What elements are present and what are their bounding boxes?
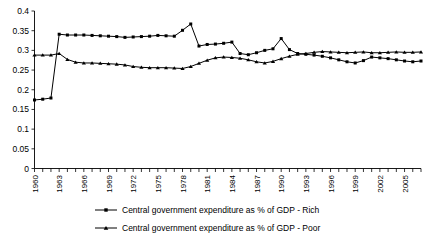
series-rich (33, 22, 423, 101)
data-point-marker (247, 53, 250, 56)
legend-item[interactable]: Central government expenditure as % of G… (95, 205, 320, 215)
data-point-marker (239, 52, 242, 55)
x-tick-label: 1972 (129, 174, 138, 192)
data-point-marker (411, 60, 414, 63)
legend-label: Central government expenditure as % of G… (122, 205, 320, 215)
x-tick-label: 1984 (228, 174, 237, 192)
y-tick-label: 0.3 (17, 45, 29, 55)
y-tick-label: 0.1 (17, 124, 29, 134)
x-tick-label: 1969 (105, 174, 114, 192)
data-point-marker (189, 22, 192, 25)
y-tick-label: 0.4 (17, 6, 29, 16)
data-point-marker (362, 59, 365, 62)
x-tick-label: 1987 (253, 174, 262, 192)
x-tick-label: 1990 (277, 174, 286, 192)
x-tick-label: 1963 (55, 174, 64, 192)
y-tick-label: 0.15 (12, 104, 29, 114)
data-point-marker (148, 35, 151, 38)
legend-item[interactable]: Central government expenditure as % of G… (95, 223, 320, 233)
x-tick-label: 1999 (351, 174, 360, 192)
data-point-marker (140, 35, 143, 38)
data-point-marker (337, 58, 340, 61)
data-point-marker (41, 98, 44, 101)
data-point-marker (370, 56, 373, 59)
data-point-marker (107, 35, 110, 38)
x-axis: 1960196319661969197219751978198119841987… (31, 169, 421, 193)
x-tick-label: 1993 (302, 174, 311, 192)
data-point-marker (420, 60, 423, 63)
data-point-marker (49, 97, 52, 100)
x-tick-label: 1981 (203, 174, 212, 192)
data-point-marker (82, 34, 85, 37)
data-point-marker (321, 55, 324, 58)
x-tick-label: 1960 (31, 174, 40, 192)
x-tick-label: 2002 (376, 174, 385, 192)
data-point-marker (222, 42, 225, 45)
data-point-marker (115, 35, 118, 38)
y-tick-label: 0.35 (12, 26, 29, 36)
data-point-marker (288, 48, 291, 51)
data-point-marker (123, 36, 126, 39)
legend-label: Central government expenditure as % of G… (122, 223, 320, 233)
data-point-marker (132, 35, 135, 38)
data-point-marker (181, 29, 184, 32)
data-point-marker (280, 37, 283, 40)
data-point-marker (66, 34, 69, 37)
x-tick-label: 1975 (154, 174, 163, 192)
data-point-marker (230, 41, 233, 44)
data-point-marker (403, 60, 406, 63)
chart-container: 00.050.10.150.20.250.30.350.4 1960196319… (0, 0, 428, 241)
data-point-marker (214, 43, 217, 46)
data-point-marker (387, 57, 390, 60)
x-tick-label: 2005 (401, 174, 410, 192)
data-point-marker (329, 56, 332, 59)
y-tick-label: 0.25 (12, 65, 29, 75)
y-tick-label: 0.05 (12, 144, 29, 154)
data-point-marker (378, 56, 381, 59)
data-point-marker (354, 61, 357, 64)
x-tick-label: 1966 (80, 174, 89, 192)
x-tick-label: 1996 (327, 174, 336, 192)
data-point-marker (313, 54, 316, 57)
data-point-marker (58, 33, 61, 36)
data-point-marker (99, 34, 102, 37)
legend-square-marker (104, 208, 107, 211)
chart-legend: Central government expenditure as % of G… (95, 205, 320, 233)
data-point-marker (91, 34, 94, 37)
y-axis: 00.050.10.150.20.250.30.350.4 (12, 6, 34, 174)
data-point-marker (173, 35, 176, 38)
data-point-marker (395, 58, 398, 61)
data-point-marker (165, 34, 168, 37)
data-point-marker (206, 43, 209, 46)
data-point-marker (197, 45, 200, 48)
line-chart: 00.050.10.150.20.250.30.350.4 1960196319… (0, 0, 428, 241)
data-point-marker (33, 98, 36, 101)
data-point-marker (345, 60, 348, 63)
data-series-group (32, 22, 423, 101)
data-point-marker (74, 34, 77, 37)
data-point-marker (263, 49, 266, 52)
y-tick-label: 0.2 (17, 85, 29, 95)
data-point-marker (255, 51, 258, 54)
y-tick-label: 0 (24, 164, 29, 174)
data-point-marker (156, 34, 159, 37)
data-point-marker (271, 47, 274, 50)
x-tick-label: 1978 (179, 174, 188, 192)
